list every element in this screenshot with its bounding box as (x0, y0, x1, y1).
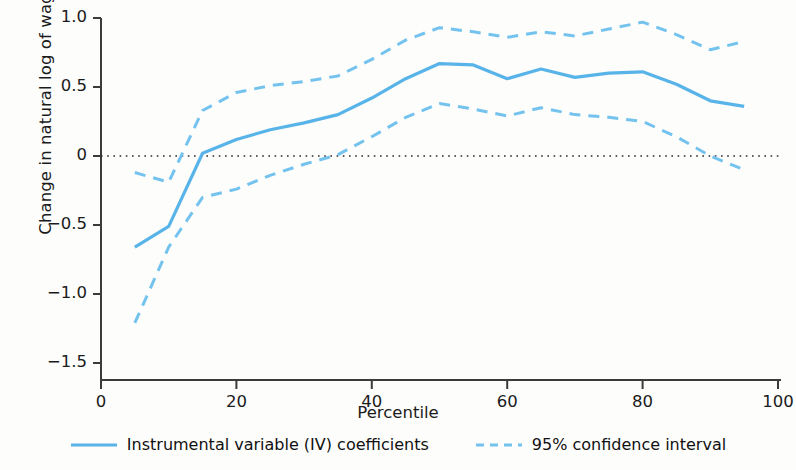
x-tick-label: 100 (748, 392, 796, 411)
legend-item-ci: 95% confidence interval (475, 435, 726, 454)
y-tick-label: 0 (27, 145, 87, 164)
y-tick-label: −1.5 (27, 352, 87, 371)
chart-legend: Instrumental variable (IV) coefficients … (0, 435, 796, 454)
series-line (135, 104, 744, 323)
y-tick-label: 1.0 (27, 7, 87, 26)
x-tick-label: 0 (71, 392, 131, 411)
solid-line-icon (70, 438, 118, 452)
y-tick-marks (93, 18, 101, 363)
y-tick-label: 0.5 (27, 76, 87, 95)
y-tick-label: −0.5 (27, 214, 87, 233)
x-tick-label: 80 (613, 392, 673, 411)
legend-label-ci: 95% confidence interval (532, 435, 726, 454)
figure-container: Change in natural log of wages Percentil… (0, 0, 796, 470)
x-tick-label: 20 (206, 392, 266, 411)
legend-label-iv: Instrumental variable (IV) coefficients (127, 435, 429, 454)
x-tick-marks (101, 380, 778, 389)
data-series-layer (135, 22, 744, 323)
x-tick-label: 40 (342, 392, 402, 411)
x-tick-label: 60 (477, 392, 537, 411)
legend-item-iv: Instrumental variable (IV) coefficients (70, 435, 429, 454)
dashed-line-icon (475, 438, 523, 452)
y-tick-label: −1.0 (27, 283, 87, 302)
